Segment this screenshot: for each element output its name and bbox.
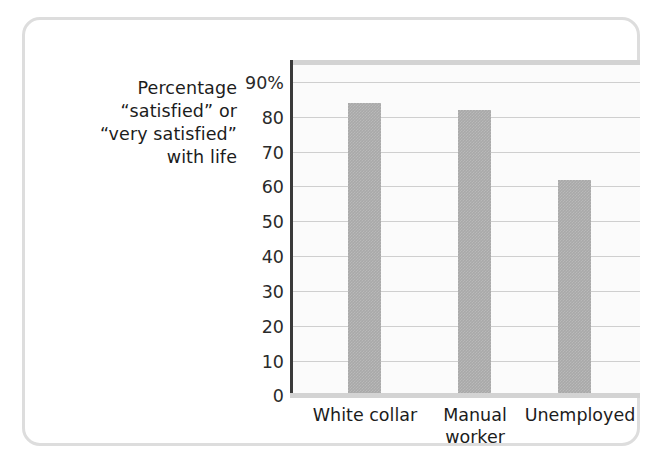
y-axis-label: Percentage “satisfied” or “very satisfie…	[71, 77, 237, 169]
x-tick-label-unemployed: Unemployed	[519, 404, 641, 426]
y-tick-label-0: 0	[228, 388, 284, 406]
bar-unemployed[interactable]	[558, 180, 591, 393]
gridline-90	[292, 82, 640, 83]
plot-area	[290, 60, 640, 398]
y-axis-tick-labels: 90% 80 70 60 50 40 30 20 10 0	[224, 60, 284, 398]
plot-top-band	[290, 60, 640, 65]
y-tick-label-20: 20	[228, 319, 284, 337]
y-axis-label-line-1: Percentage	[71, 77, 237, 100]
x-tick-label-white-collar: White collar	[302, 404, 428, 426]
y-axis-label-line-3: “very satisfied”	[71, 123, 237, 146]
y-tick-label-90: 90%	[228, 75, 284, 93]
x-tick-label-manual-worker: Manual worker	[416, 404, 534, 448]
figure-frame: Percentage “satisfied” or “very satisfie…	[22, 17, 640, 446]
y-tick-label-40: 40	[228, 249, 284, 267]
y-axis-label-line-2: “satisfied” or	[71, 100, 237, 123]
y-tick-label-30: 30	[228, 284, 284, 302]
x-axis-baseline	[290, 393, 640, 398]
y-tick-label-50: 50	[228, 214, 284, 232]
y-tick-label-80: 80	[228, 110, 284, 128]
y-tick-label-70: 70	[228, 145, 284, 163]
bar-white-collar[interactable]	[348, 103, 381, 393]
y-axis-spine	[290, 60, 293, 396]
x-axis-tick-labels: White collar Manual worker Unemployed	[290, 404, 640, 464]
y-tick-label-60: 60	[228, 179, 284, 197]
bar-manual-worker[interactable]	[458, 110, 491, 393]
y-axis-label-line-4: with life	[71, 146, 237, 169]
y-tick-label-10: 10	[228, 354, 284, 372]
